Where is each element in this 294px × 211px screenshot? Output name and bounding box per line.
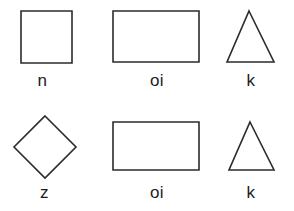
rectangle-outline bbox=[113, 122, 199, 170]
shape-label-triangle-bottom: k bbox=[216, 184, 286, 201]
shape-cell-diamond[interactable]: z bbox=[0, 105, 98, 211]
shape-label-rectangle-bottom: oi bbox=[98, 184, 216, 201]
rectangle-outline bbox=[113, 11, 199, 62]
shape-label-rectangle-top: oi bbox=[98, 72, 216, 89]
shape-label-diamond: z bbox=[0, 184, 89, 201]
shape-cell-rectangle-top[interactable]: oi bbox=[98, 0, 216, 100]
shape-cell-triangle-bottom[interactable]: k bbox=[216, 105, 294, 211]
shape-cell-square[interactable]: n bbox=[0, 0, 98, 100]
shape-label-square: n bbox=[0, 72, 85, 89]
shape-cell-rectangle-bottom[interactable]: oi bbox=[98, 105, 216, 211]
square-outline bbox=[21, 11, 72, 63]
shape-label-triangle-top: k bbox=[216, 72, 286, 89]
triangle-outline bbox=[227, 11, 274, 62]
triangle-outline bbox=[229, 122, 274, 170]
diamond-outline bbox=[14, 116, 76, 178]
shape-cell-triangle-top[interactable]: k bbox=[216, 0, 294, 100]
shapes-canvas: n oi k z oi k bbox=[0, 0, 294, 211]
